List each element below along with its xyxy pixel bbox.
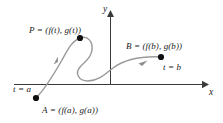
curve-direction-arrow-right [139, 61, 148, 66]
point-P-label: P = (f(t), g(t)) [29, 26, 81, 35]
point-A-dot [33, 95, 39, 101]
parametric-curve-figure: P = (f(t), g(t)) A = (f(a), g(a)) t = a … [0, 0, 223, 123]
point-A-label: A = (f(a), g(a)) [42, 106, 98, 115]
x-axis-arrowhead [202, 81, 209, 88]
figure-canvas [0, 0, 223, 123]
y-axis-label: y [103, 5, 107, 15]
curve-direction-arrow-left [54, 57, 58, 65]
point-B-param-label: t = b [163, 63, 181, 72]
point-B-label: B = (f(b), g(b)) [126, 42, 182, 51]
x-axis-label: x [209, 88, 213, 98]
y-axis-arrowhead [107, 10, 114, 17]
point-A-param-label: t = a [13, 85, 31, 94]
point-P-dot [77, 35, 83, 41]
point-B-dot [158, 54, 164, 60]
